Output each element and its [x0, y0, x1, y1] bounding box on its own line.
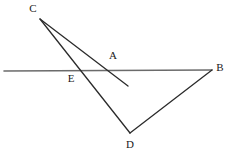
geometry-figure-svg: C A B D E — [0, 0, 236, 157]
point-label-B: B — [216, 61, 223, 73]
point-label-D: D — [126, 138, 134, 150]
point-label-C: C — [29, 2, 36, 14]
point-label-E: E — [68, 72, 75, 84]
point-label-A: A — [109, 49, 117, 61]
geometry-figure-canvas: C A B D E — [0, 0, 236, 157]
